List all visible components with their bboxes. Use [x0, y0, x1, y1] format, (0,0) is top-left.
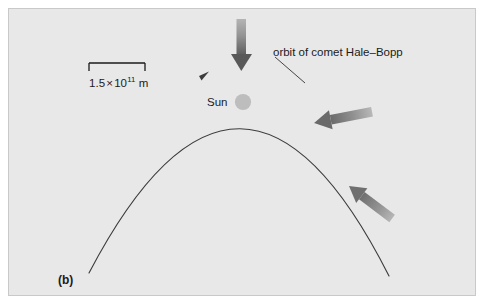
diagram-canvas [9, 9, 476, 296]
force-arrow-upper-right-shaft [330, 107, 373, 124]
force-arrow-apex-head [231, 54, 252, 71]
scale-bar-label: 1.5×1011 m [89, 78, 148, 90]
comet-orbit-curve [89, 129, 389, 276]
scale-bar-base: 10 [114, 77, 127, 89]
panel-label: (b) [58, 274, 73, 286]
force-arrow-lower-right-shaft [359, 192, 395, 222]
force-arrow-apex [231, 19, 252, 71]
orbit-label: orbit of comet Hale–Bopp [273, 47, 403, 59]
scale-bar-exponent: 11 [127, 75, 135, 84]
diagram-panel: 1.5×1011 m orbit of comet Hale–Bopp Sun … [8, 8, 476, 296]
sun-label: Sun [207, 97, 227, 109]
force-arrow-apex-shaft [237, 19, 247, 55]
figure-root: 1.5×1011 m orbit of comet Hale–Bopp Sun … [0, 0, 486, 305]
scale-bar-times-symbol: × [105, 77, 114, 89]
sun-disc-icon [235, 94, 251, 110]
force-arrow-upper-right-head [312, 110, 332, 132]
orbit-direction-arrowhead-icon [199, 72, 209, 81]
scale-bar-unit: m [139, 77, 149, 89]
scale-bar-bracket [89, 63, 145, 71]
force-arrow-upper-right [312, 102, 374, 132]
orbit-label-leader-line [275, 57, 305, 83]
force-arrow-lower-right [343, 179, 397, 226]
scale-bar-value: 1.5 [89, 77, 105, 89]
